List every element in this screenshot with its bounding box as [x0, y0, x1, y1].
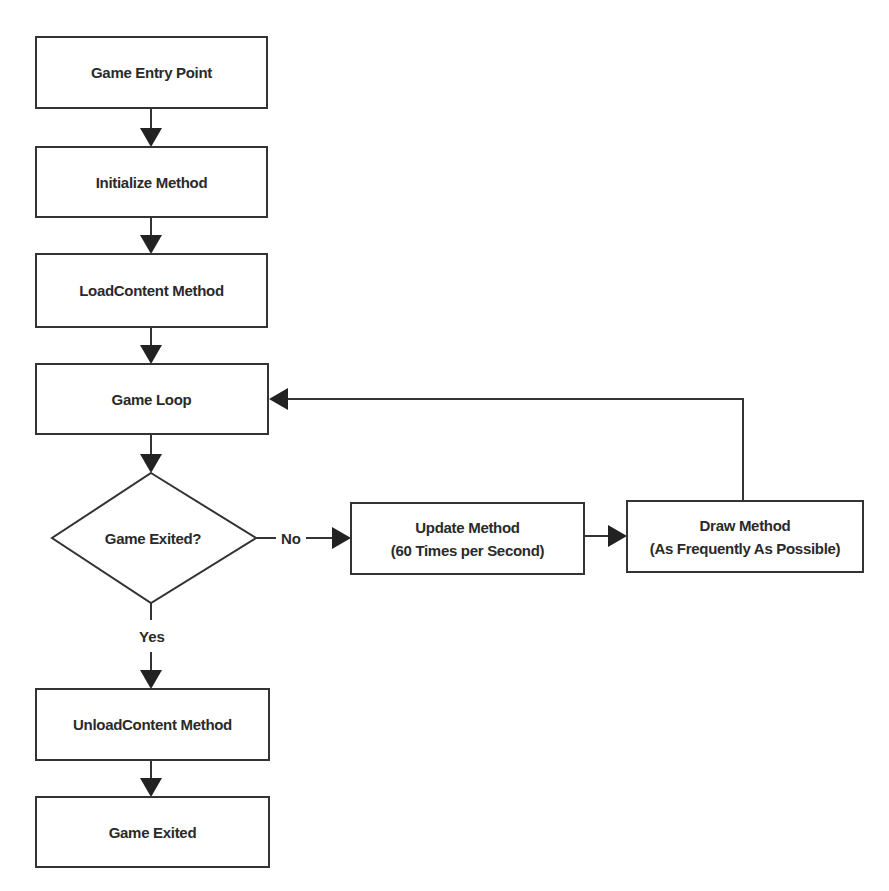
node-label: Game Entry Point	[91, 64, 212, 81]
arrowhead-right-icon	[608, 525, 627, 547]
arrowhead-down-icon	[140, 454, 162, 473]
edge-label-yes: Yes	[139, 628, 165, 645]
node-label-line2: (As Frequently As Possible)	[650, 540, 841, 557]
arrowhead-right-icon	[332, 527, 351, 549]
flowchart: Game Entry Point Initialize Method LoadC…	[0, 0, 889, 891]
node-loadcontent-method: LoadContent Method	[36, 254, 267, 327]
node-label-line2: (60 Times per Second)	[391, 542, 545, 559]
arrowhead-down-icon	[140, 128, 162, 147]
node-update-method: Update Method (60 Times per Second)	[351, 503, 584, 574]
arrowhead-down-icon	[140, 345, 162, 364]
node-label: Game Exited	[109, 824, 197, 841]
node-unloadcontent-method: UnloadContent Method	[36, 689, 269, 760]
node-initialize-method: Initialize Method	[36, 147, 267, 217]
node-label: LoadContent Method	[79, 282, 224, 299]
node-label-line1: Draw Method	[700, 517, 791, 534]
node-label-line1: Update Method	[415, 519, 520, 536]
node-game-loop: Game Loop	[36, 364, 268, 434]
node-game-exited: Game Exited	[36, 797, 269, 867]
edge-draw-gameloop	[286, 399, 743, 501]
node-game-exited-decision: Game Exited?	[52, 473, 256, 603]
arrowhead-down-icon	[140, 778, 162, 797]
node-label: UnloadContent Method	[73, 716, 232, 733]
edge-label-no: No	[281, 530, 301, 547]
arrowhead-down-icon	[140, 235, 162, 254]
arrowhead-down-icon	[140, 670, 162, 689]
node-draw-method: Draw Method (As Frequently As Possible)	[627, 501, 863, 572]
process-box	[351, 503, 584, 574]
process-box	[627, 501, 863, 572]
node-game-entry-point: Game Entry Point	[36, 37, 267, 108]
node-label: Game Exited?	[105, 530, 202, 547]
node-label: Game Loop	[112, 391, 192, 408]
arrowhead-left-icon	[269, 388, 288, 410]
node-label: Initialize Method	[96, 174, 208, 191]
